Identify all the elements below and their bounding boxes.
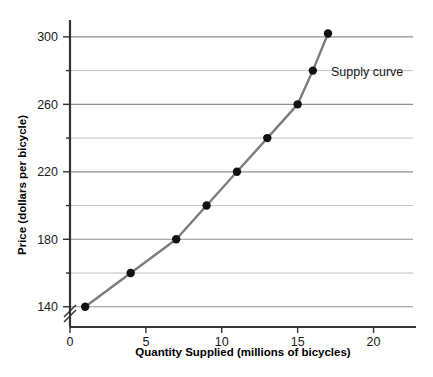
data-point-8 — [324, 29, 332, 37]
supply-curve-label: Supply curve — [331, 65, 403, 79]
y-tick-label-180: 180 — [37, 233, 58, 247]
y-tick-label-220: 220 — [37, 165, 58, 179]
supply-curve-chart: 140180220260300 05101520 Supply curve Qu… — [0, 0, 433, 377]
data-point-1 — [127, 269, 135, 277]
x-axis-title: Quantity Supplied (millions of bicycles) — [135, 346, 351, 358]
y-tick-label-140: 140 — [37, 300, 58, 314]
x-tick-label-0: 0 — [67, 335, 74, 349]
data-point-3 — [202, 201, 210, 209]
y-tick-label-300: 300 — [37, 30, 58, 44]
data-point-7 — [309, 66, 317, 74]
x-tick-label-20: 20 — [367, 335, 381, 349]
data-point-5 — [263, 134, 271, 142]
data-point-6 — [293, 100, 301, 108]
data-point-2 — [172, 235, 180, 243]
chart-canvas: 140180220260300 05101520 Supply curve Qu… — [0, 0, 433, 377]
data-point-0 — [81, 303, 89, 311]
y-axis-title: Price (dollars per bicycle) — [16, 115, 28, 255]
data-point-4 — [233, 168, 241, 176]
y-tick-label-260: 260 — [37, 98, 58, 112]
